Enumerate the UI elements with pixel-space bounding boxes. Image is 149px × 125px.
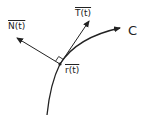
diagram-canvas: N(t) T(t) r(t) C xyxy=(0,0,149,125)
normal-vector-arrow xyxy=(17,38,60,64)
curve-c xyxy=(47,28,120,115)
tangent-vector-arrow xyxy=(60,21,89,64)
tangent-label: T(t) xyxy=(75,9,91,18)
curve-label: C xyxy=(128,24,137,37)
position-label: r(t) xyxy=(65,66,79,75)
point-r xyxy=(58,62,61,65)
diagram-svg xyxy=(0,0,149,125)
normal-label: N(t) xyxy=(8,22,25,31)
